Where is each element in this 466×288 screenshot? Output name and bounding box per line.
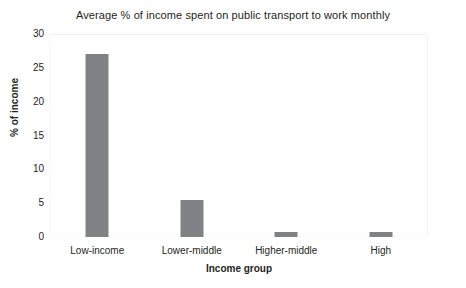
x-axis-tick-label-higher-middle: Higher-middle (239, 245, 334, 257)
bar-lower-middle[interactable] (180, 200, 203, 237)
y-axis-title: % of income (9, 58, 20, 158)
bars-container (50, 34, 428, 237)
bar-higher-middle[interactable] (275, 232, 298, 237)
y-axis-tick-label: 20 (0, 97, 44, 107)
bar-slot (50, 34, 145, 237)
y-axis-tick-label: 10 (0, 164, 44, 174)
y-axis-tick-labels: 30 25 20 15 10 5 0 (0, 34, 44, 237)
y-axis-tick-label: 25 (0, 63, 44, 73)
bar-slot (145, 34, 240, 237)
y-axis-tick-label: 15 (0, 131, 44, 141)
x-axis-tick-label-lower-middle: Lower-middle (145, 245, 240, 257)
x-axis-title: Income group (50, 263, 428, 274)
y-axis-tick-label: 0 (0, 232, 44, 242)
y-axis-tick-label: 30 (0, 29, 44, 39)
bar-chart-figure: Average % of income spent on public tran… (0, 0, 466, 288)
x-axis-tick-label-high: High (334, 245, 429, 257)
bar-slot (334, 34, 429, 237)
bar-low-income[interactable] (86, 54, 109, 237)
x-axis-tick-label-low-income: Low-income (50, 245, 145, 257)
y-axis-tick-label: 5 (0, 198, 44, 208)
chart-title: Average % of income spent on public tran… (0, 8, 466, 22)
bar-slot (239, 34, 334, 237)
bar-high[interactable] (369, 232, 392, 237)
x-axis-tick-labels: Low-income Lower-middle Higher-middle Hi… (50, 245, 428, 259)
